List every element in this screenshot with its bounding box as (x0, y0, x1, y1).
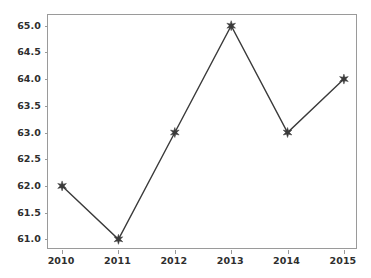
x-tick-label: 2012 (160, 255, 187, 266)
y-tick-mark (45, 52, 49, 53)
x-tick-label: 2013 (217, 255, 244, 266)
x-axis-tick-labels: 201020112012201320142015 (47, 249, 357, 273)
y-tick-mark (45, 133, 49, 134)
y-tick-label: 62.5 (17, 153, 41, 164)
x-tick-label: 2011 (104, 255, 131, 266)
y-tick-label: 62.0 (17, 179, 41, 190)
x-tick-label: 2015 (329, 255, 356, 266)
data-line (62, 26, 344, 240)
x-tick-label: 2014 (273, 255, 300, 266)
y-tick-label: 61.5 (17, 206, 41, 217)
y-tick-mark (45, 26, 49, 27)
x-tick-label: 2010 (48, 255, 75, 266)
data-markers (58, 21, 348, 245)
y-tick-mark (45, 213, 49, 214)
y-tick-mark (45, 239, 49, 240)
y-tick-label: 64.5 (17, 46, 41, 57)
data-point-marker (227, 21, 236, 31)
y-tick-label: 64.0 (17, 73, 41, 84)
y-tick-label: 63.5 (17, 99, 41, 110)
y-tick-mark (45, 186, 49, 187)
line-series-svg (48, 15, 358, 250)
y-tick-mark (45, 79, 49, 80)
y-tick-mark (45, 106, 49, 107)
chart-figure: 61.061.562.062.563.063.564.064.565.0 201… (0, 0, 371, 278)
y-tick-label: 63.0 (17, 126, 41, 137)
y-axis-tick-labels: 61.061.562.062.563.063.564.064.565.0 (0, 14, 41, 249)
plot-area (47, 14, 357, 249)
y-tick-mark (45, 159, 49, 160)
y-tick-label: 65.0 (17, 19, 41, 30)
y-tick-label: 61.0 (17, 233, 41, 244)
data-point-marker (170, 128, 179, 138)
